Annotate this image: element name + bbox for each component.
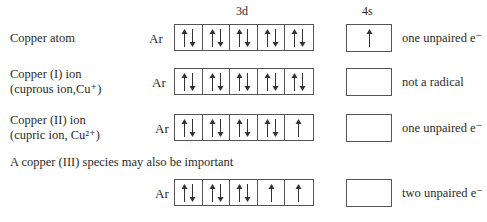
orbital-4s bbox=[346, 24, 392, 52]
header-3d: 3d bbox=[236, 4, 248, 19]
orbital-cell bbox=[175, 180, 203, 205]
spin-up-arrow-icon bbox=[209, 29, 216, 47]
core-label: Ar bbox=[149, 31, 163, 47]
row-label: Copper (I) ion bbox=[10, 67, 82, 82]
spin-up-arrow-icon bbox=[236, 119, 243, 137]
spin-down-arrow-icon bbox=[189, 73, 196, 91]
orbital-cell bbox=[258, 25, 286, 50]
core-label: Ar bbox=[155, 121, 169, 137]
orbital-cell bbox=[175, 69, 203, 94]
orbital-3d bbox=[174, 24, 314, 51]
spin-up-arrow-icon bbox=[209, 73, 216, 91]
header-4s: 4s bbox=[362, 4, 373, 19]
orbital-4s bbox=[346, 179, 392, 207]
orbital-3d bbox=[174, 179, 314, 206]
orbital-cell bbox=[230, 180, 258, 205]
spin-down-arrow-icon bbox=[272, 73, 279, 91]
spin-up-arrow-icon bbox=[181, 184, 188, 202]
spin-up-arrow-icon bbox=[268, 184, 275, 202]
spin-up-arrow-icon bbox=[236, 29, 243, 47]
row-note: not a radical bbox=[402, 75, 464, 90]
row-note: one unpaired e⁻ bbox=[402, 121, 482, 136]
spin-up-arrow-icon bbox=[291, 73, 298, 91]
spin-down-arrow-icon bbox=[272, 119, 279, 137]
spin-down-arrow-icon bbox=[244, 29, 251, 47]
row-label-sub: (cuprous ion,Cu⁺) bbox=[10, 82, 101, 97]
row-label-sub: (cupric ion, Cu²⁺) bbox=[10, 128, 100, 143]
orbital-cell bbox=[285, 180, 313, 205]
orbital-cell bbox=[285, 25, 313, 50]
spin-up-arrow-icon bbox=[264, 119, 271, 137]
orbital-3d bbox=[174, 68, 314, 95]
orbital-cell bbox=[175, 25, 203, 50]
orbital-cell bbox=[230, 69, 258, 94]
spin-down-arrow-icon bbox=[217, 73, 224, 91]
spin-down-arrow-icon bbox=[189, 29, 196, 47]
spin-up-arrow-icon bbox=[236, 184, 243, 202]
orbital-cell bbox=[258, 180, 286, 205]
orbital-cell bbox=[258, 69, 286, 94]
orbital-cell bbox=[175, 115, 203, 140]
spin-up-arrow-icon bbox=[291, 29, 298, 47]
spin-up-arrow-icon bbox=[366, 29, 373, 47]
orbital-4s bbox=[346, 68, 392, 96]
spin-down-arrow-icon bbox=[244, 119, 251, 137]
orbital-cell bbox=[285, 69, 313, 94]
row-label: Copper atom bbox=[10, 31, 75, 46]
orbital-cell bbox=[230, 25, 258, 50]
spin-up-arrow-icon bbox=[209, 119, 216, 137]
spin-down-arrow-icon bbox=[189, 184, 196, 202]
spin-down-arrow-icon bbox=[299, 73, 306, 91]
row-note: one unpaired e⁻ bbox=[402, 31, 482, 46]
spin-down-arrow-icon bbox=[189, 119, 196, 137]
spin-down-arrow-icon bbox=[217, 29, 224, 47]
spin-up-arrow-icon bbox=[295, 119, 302, 137]
spin-up-arrow-icon bbox=[264, 29, 271, 47]
spin-down-arrow-icon bbox=[272, 29, 279, 47]
spin-down-arrow-icon bbox=[299, 29, 306, 47]
core-label: Ar bbox=[152, 75, 166, 91]
spin-up-arrow-icon bbox=[264, 73, 271, 91]
spin-down-arrow-icon bbox=[217, 184, 224, 202]
orbital-cell bbox=[203, 115, 231, 140]
core-label: Ar bbox=[155, 186, 169, 202]
row-label: Copper (II) ion bbox=[10, 113, 86, 128]
spin-down-arrow-icon bbox=[244, 73, 251, 91]
spin-up-arrow-icon bbox=[236, 73, 243, 91]
orbital-3d bbox=[174, 114, 314, 141]
orbital-cell bbox=[203, 180, 231, 205]
orbital-cell bbox=[203, 69, 231, 94]
section-note: A copper (III) species may also be impor… bbox=[10, 155, 233, 170]
orbital-cell bbox=[230, 115, 258, 140]
orbital-cell bbox=[258, 115, 286, 140]
spin-up-arrow-icon bbox=[295, 184, 302, 202]
orbital-4s bbox=[346, 114, 392, 142]
row-note: two unpaired e⁻ bbox=[402, 186, 483, 201]
spin-down-arrow-icon bbox=[244, 184, 251, 202]
spin-down-arrow-icon bbox=[217, 119, 224, 137]
spin-up-arrow-icon bbox=[181, 119, 188, 137]
spin-up-arrow-icon bbox=[181, 29, 188, 47]
spin-up-arrow-icon bbox=[181, 73, 188, 91]
spin-up-arrow-icon bbox=[209, 184, 216, 202]
orbital-cell bbox=[285, 115, 313, 140]
orbital-cell bbox=[203, 25, 231, 50]
